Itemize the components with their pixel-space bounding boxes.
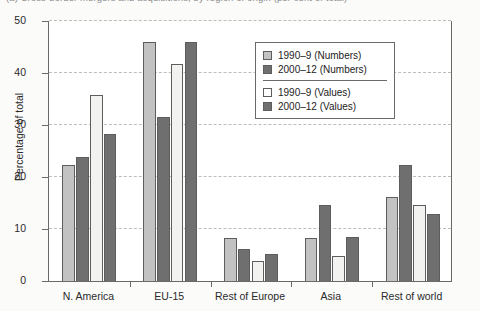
y-tick-label: 40 <box>0 66 26 78</box>
bar <box>413 205 426 281</box>
bar-group <box>49 21 130 281</box>
bar <box>265 254 278 281</box>
x-axis-separator-tick <box>130 281 131 287</box>
bar <box>252 261 265 281</box>
legend-item: 1990–9 (Numbers) <box>263 48 387 62</box>
bar <box>62 165 75 281</box>
figure-caption: (a) Cross-border mergers and acquisition… <box>6 0 347 3</box>
legend-swatch-numbers-1990s <box>263 51 272 60</box>
legend-item: 2000–12 (Numbers) <box>263 62 387 76</box>
bar-chart-figure: Percentage of total 01020304050 N. Ameri… <box>0 11 480 311</box>
x-tick-label: Rest of Europe <box>215 290 285 302</box>
y-axis-title: Percentage of total <box>13 62 25 212</box>
x-axis-separator-tick <box>211 281 212 287</box>
bar <box>224 238 237 281</box>
bar <box>238 249 251 281</box>
bar <box>104 134 117 281</box>
legend-label: 2000–12 (Values) <box>278 101 356 112</box>
bar <box>386 197 399 281</box>
x-tick-label: Asia <box>321 290 341 302</box>
legend-swatch-values-2000s <box>263 102 272 111</box>
figure-caption-strip: (a) Cross-border mergers and acquisition… <box>0 0 480 11</box>
x-tick-label: Rest of world <box>381 290 442 302</box>
bar <box>305 238 318 281</box>
x-axis-separator-tick <box>372 281 373 287</box>
legend-label: 2000–12 (Numbers) <box>278 64 367 75</box>
legend-divider <box>263 80 387 81</box>
y-tick-label: 50 <box>0 14 26 26</box>
bar <box>157 117 170 281</box>
legend-item: 2000–12 (Values) <box>263 99 387 113</box>
y-tick-label: 30 <box>0 118 26 130</box>
legend-label: 1990–9 (Values) <box>278 87 351 98</box>
legend-item: 1990–9 (Values) <box>263 85 387 99</box>
bar <box>171 64 184 281</box>
bar <box>76 157 89 281</box>
bar <box>319 205 332 281</box>
x-tick-label: N. America <box>63 290 114 302</box>
legend-label: 1990–9 (Numbers) <box>278 50 361 61</box>
chart-legend: 1990–9 (Numbers) 2000–12 (Numbers) 1990–… <box>255 42 395 119</box>
legend-swatch-values-1990s <box>263 88 272 97</box>
bar-group <box>130 21 211 281</box>
y-tick-label: 0 <box>0 274 26 286</box>
x-tick-label: EU-15 <box>154 290 184 302</box>
y-tick-label: 10 <box>0 222 26 234</box>
y-tick-label: 20 <box>0 170 26 182</box>
bar <box>90 95 103 281</box>
bar <box>427 214 440 281</box>
bar <box>332 256 345 281</box>
x-axis-separator-tick <box>291 281 292 287</box>
bar <box>185 42 198 281</box>
bar <box>399 165 412 281</box>
bar <box>143 42 156 281</box>
bar <box>346 237 359 281</box>
legend-swatch-numbers-2000s <box>263 65 272 74</box>
